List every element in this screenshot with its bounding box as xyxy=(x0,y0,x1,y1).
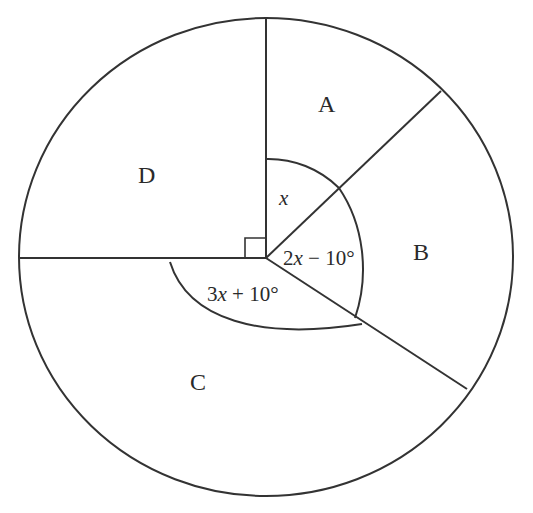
region-label-d: D xyxy=(138,162,155,188)
angle-label-x: x xyxy=(278,186,289,210)
radius-upper-right xyxy=(266,91,441,258)
angle-label-3x-plus-10: 3x + 10° xyxy=(207,282,279,306)
angle-label-2x-minus-10: 2x − 10° xyxy=(283,246,355,270)
circle-diagram: A B C D x 2x − 10° 3x + 10° xyxy=(0,0,533,513)
region-label-b: B xyxy=(413,239,429,265)
radius-lower-right xyxy=(266,258,467,389)
angle-b-const: − 10° xyxy=(303,246,355,270)
angle-b-coef: 2 xyxy=(283,246,294,270)
angle-c-coef: 3 xyxy=(207,282,218,306)
region-label-c: C xyxy=(190,369,206,395)
angle-c-const: + 10° xyxy=(227,282,279,306)
angle-arc-x xyxy=(266,159,339,188)
region-label-a: A xyxy=(318,91,336,117)
right-angle-marker xyxy=(245,238,266,258)
